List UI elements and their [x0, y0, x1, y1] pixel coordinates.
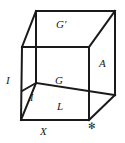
label-front-face: L	[57, 101, 63, 112]
edge-oblique-bottom-right	[89, 95, 115, 120]
label-left-edge: I	[6, 75, 10, 86]
asterisk-icon: ✻	[88, 122, 96, 131]
edge-oblique-top-right	[89, 11, 115, 47]
edge-oblique-bottom-left	[21, 83, 36, 120]
edge-interior-bottom-back	[36, 83, 115, 95]
label-inner-diagonal: I	[30, 93, 33, 103]
edge-front-left	[21, 47, 22, 120]
label-top-face: G′	[56, 19, 66, 30]
label-bottom-edge: X	[40, 126, 47, 137]
label-inner-vertex: G	[55, 75, 63, 86]
label-right-face: A	[99, 58, 106, 69]
cube-figure: G′ A I G I L X ✻	[0, 0, 125, 143]
edge-oblique-top-left	[22, 11, 36, 47]
